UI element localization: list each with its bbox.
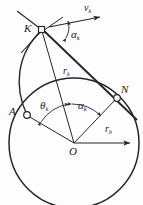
point-label-N: N	[121, 84, 128, 95]
label-r-k: rk	[63, 66, 69, 76]
point-label-O: O	[69, 146, 77, 157]
label-alpha-k-at-K: αk	[71, 29, 80, 40]
point-marker-A	[24, 112, 31, 119]
point-label-A: A	[9, 106, 16, 117]
label-theta-k: θk	[40, 100, 48, 111]
point-marker-N	[114, 95, 121, 102]
point-label-K: K	[24, 23, 31, 34]
tangent-line-K-N	[41, 28, 137, 120]
label-r-b: rb	[105, 124, 112, 134]
label-velocity-vk: vk	[84, 3, 91, 13]
label-alpha-k-at-O: αk	[78, 100, 87, 111]
radius-O-K	[42, 31, 74, 143]
geometry-figure: K A N O vk αk rk θk αk rb	[0, 0, 143, 205]
point-marker-K	[39, 27, 45, 33]
